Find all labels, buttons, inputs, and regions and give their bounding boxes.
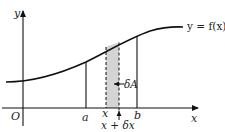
bound-b-label: b [134, 109, 141, 122]
delta-area-label: δA [124, 78, 138, 90]
bound-a-label: a [82, 111, 89, 124]
strip-right-label: x + δx [101, 119, 135, 131]
curve-y-equals-f-x [6, 27, 183, 82]
y-axis-label: y [13, 7, 21, 20]
shaded-strip [106, 43, 119, 109]
x-axis-label: x [191, 112, 198, 125]
curve-label: y = f(x) [186, 20, 225, 32]
integration-strip-diagram: y O x a b x x + δx δA y = f(x) [0, 0, 225, 132]
origin-label: O [11, 110, 20, 123]
